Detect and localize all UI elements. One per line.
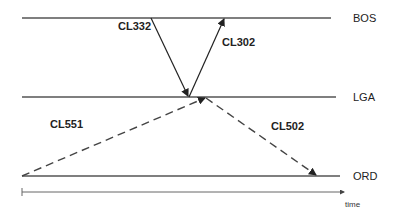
flight-label-cl502: CL502 (271, 120, 304, 132)
flight-cl302-arrow (189, 19, 224, 97)
flight-label-cl302: CL302 (222, 36, 255, 48)
airport-label-ord: ORD (353, 170, 378, 182)
flight-timeline-diagram: BOS LGA ORD CL332 CL302 CL551 CL502 time (0, 0, 395, 220)
flight-cl551-arrow (22, 98, 205, 176)
time-axis-label: time (345, 200, 361, 209)
airport-label-lga: LGA (353, 91, 376, 103)
flight-label-cl332: CL332 (118, 20, 151, 32)
flight-cl502-arrow (206, 98, 316, 175)
airport-label-bos: BOS (353, 12, 376, 24)
flight-label-cl551: CL551 (50, 118, 83, 130)
flight-cl332-arrow (151, 18, 188, 96)
